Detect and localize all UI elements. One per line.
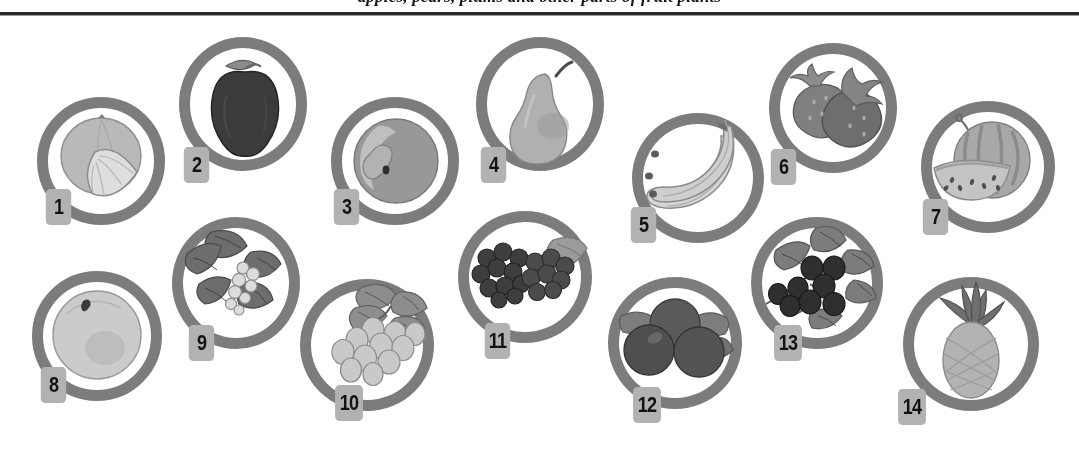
item-number-badge: 9: [189, 325, 214, 361]
item-number-badge: 12: [633, 387, 661, 423]
item-number-badge: 5: [631, 207, 656, 243]
item-number-badge: 4: [481, 147, 506, 183]
item-number: 11: [489, 330, 506, 352]
item-number-badge: 11: [485, 323, 510, 359]
figure-caption: apples, pears, plums and other parts of …: [0, 0, 1079, 7]
item-number: 3: [342, 196, 351, 218]
item-number: 1: [54, 196, 63, 218]
item-number-badge: 10: [335, 385, 363, 421]
item-number: 10: [340, 392, 358, 414]
item-number-badge: 13: [774, 325, 802, 361]
apple-icon: [197, 51, 293, 157]
item-number: 8: [49, 374, 58, 396]
item-number: 2: [192, 154, 201, 176]
item-number: 9: [197, 332, 206, 354]
item-number: 5: [639, 214, 648, 236]
plum-icon: [349, 113, 443, 209]
figure-caption-clip: apples, pears, plums and other parts of …: [0, 0, 1079, 11]
item-number: 14: [903, 396, 921, 418]
blackcurrant-icon: [755, 223, 879, 343]
item-number-badge: 8: [41, 367, 66, 403]
item-number: 6: [779, 156, 788, 178]
fruit-figure-plate: 1 2 3: [0, 15, 1079, 455]
blueberry-icon: [616, 295, 734, 391]
item-number: 4: [489, 154, 498, 176]
pineapple-icon: [929, 281, 1013, 401]
item-number: 7: [931, 206, 940, 228]
item-number-badge: 14: [898, 389, 926, 425]
banana-icon: [642, 125, 756, 229]
item-number-badge: 6: [771, 149, 796, 185]
item-number-badge: 3: [334, 189, 359, 225]
item-number: 13: [779, 332, 797, 354]
item-number-badge: 7: [923, 199, 948, 235]
strawberry-icon: [777, 57, 889, 161]
item-number-badge: 2: [184, 147, 209, 183]
blackberry-icon: [462, 229, 588, 325]
grape-icon: [304, 279, 432, 397]
pear-icon: [494, 49, 590, 159]
item-number: 12: [638, 394, 656, 416]
item-number-badge: 1: [46, 189, 71, 225]
